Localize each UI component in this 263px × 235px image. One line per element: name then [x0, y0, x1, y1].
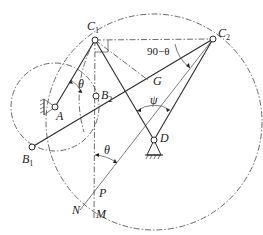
joint-c2 [210, 36, 216, 42]
label-theta-p: θ [104, 143, 110, 157]
label-p: P [98, 186, 107, 200]
label-g: G [153, 74, 162, 88]
joint-c1 [92, 37, 98, 43]
arrow [95, 153, 99, 157]
label-d: D [159, 131, 169, 145]
c1-g-line [95, 40, 148, 80]
line-np-c2 [80, 39, 213, 210]
joint-d [151, 137, 157, 143]
label-n: N [71, 203, 81, 217]
label-b1: B1 [22, 152, 33, 168]
arrow [186, 63, 190, 68]
link-a-c1 [55, 40, 95, 107]
link-b1-c2 [32, 39, 213, 147]
linkage-diagram: C1 C2 A B1 B2 D G P N M θ θ ψ 90−θ [0, 0, 263, 235]
label-psi: ψ [150, 93, 158, 107]
label-c1: C1 [87, 19, 99, 35]
label-theta-a: θ [78, 77, 84, 91]
joint-b1 [29, 144, 35, 150]
label-complement: 90−θ [147, 45, 169, 57]
joint-b2 [93, 93, 99, 99]
label-b2: B2 [101, 88, 112, 104]
c1-c2-line [95, 39, 213, 40]
label-c2: C2 [218, 26, 230, 42]
label-a: A [55, 109, 64, 123]
label-m: M [95, 207, 107, 221]
